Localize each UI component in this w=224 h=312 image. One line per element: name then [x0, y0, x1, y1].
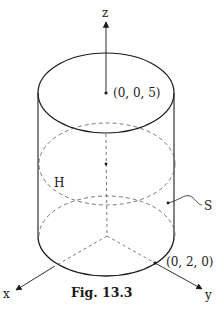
- point-hemisphere-center: [105, 163, 108, 166]
- z-axis: [106, 22, 107, 236]
- surface-label: S: [204, 199, 212, 213]
- cylinder-figure: z x y (0, 0, 5) (0, 2, 0) H: [0, 0, 224, 312]
- surface-leader-line: [168, 196, 202, 205]
- x-axis: [16, 236, 107, 290]
- y-axis-point-label: (0, 2, 0): [166, 255, 214, 269]
- bottom-ellipse-front: [38, 236, 174, 276]
- top-center-label: (0, 0, 5): [113, 86, 161, 100]
- point-top-center: [104, 91, 107, 94]
- x-axis-label: x: [3, 287, 10, 301]
- point-y-axis: [153, 261, 156, 264]
- hemisphere-label: H: [54, 176, 64, 190]
- y-axis-label: y: [204, 288, 212, 302]
- diagram-canvas: z x y (0, 0, 5) (0, 2, 0) H: [0, 0, 224, 312]
- figure-caption: Fig. 13.3: [71, 285, 133, 300]
- z-axis-label: z: [102, 6, 108, 20]
